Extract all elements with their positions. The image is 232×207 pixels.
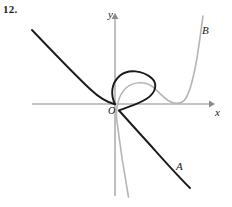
curve-a-loop-path [112, 71, 155, 110]
y-axis-label: y [108, 8, 113, 20]
curve-a-left-branch [32, 30, 115, 104]
curve-a-label: A [176, 160, 183, 172]
x-axis-label: x [215, 106, 220, 118]
curve-a-right-branch [119, 111, 190, 189]
origin-label: O [108, 105, 115, 116]
curve-b-label: B [202, 24, 209, 36]
graph-svg [0, 0, 232, 207]
figure-container: 12. y x O A B [0, 0, 232, 207]
